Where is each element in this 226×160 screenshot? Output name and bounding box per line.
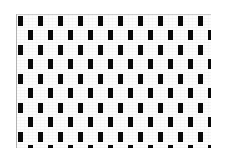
- pattern-bar: [148, 145, 153, 148]
- pattern-bar: [38, 132, 43, 142]
- pattern-bar: [118, 74, 123, 84]
- pattern-bar: [38, 45, 43, 55]
- pattern-bar: [108, 88, 113, 98]
- pattern-bar: [208, 145, 211, 148]
- pattern-bar: [208, 30, 211, 40]
- pattern-bar: [58, 45, 63, 55]
- pattern-bar: [138, 132, 143, 142]
- pattern-bar: [108, 59, 113, 69]
- pattern-bar: [98, 132, 103, 142]
- plate-left-edge-rule: [16, 14, 17, 148]
- pattern-bar: [78, 74, 83, 84]
- pattern-bar: [158, 16, 163, 26]
- pattern-bar: [118, 132, 123, 142]
- pattern-bar: [168, 117, 173, 127]
- pattern-bar: [118, 103, 123, 113]
- pattern-bar: [18, 132, 23, 142]
- pattern-bar: [28, 117, 33, 127]
- pattern-bar: [198, 132, 203, 142]
- pattern-bar: [18, 16, 23, 26]
- pattern-bar: [138, 103, 143, 113]
- pattern-bar: [78, 16, 83, 26]
- pattern-bar: [88, 117, 93, 127]
- pattern-bar: [78, 132, 83, 142]
- pattern-bar: [68, 117, 73, 127]
- pattern-bar: [178, 132, 183, 142]
- pattern-bar: [188, 30, 193, 40]
- pattern-bar: [108, 117, 113, 127]
- pattern-bar: [78, 103, 83, 113]
- pattern-bar: [28, 88, 33, 98]
- pattern-bar: [48, 59, 53, 69]
- image-canvas: [0, 0, 226, 160]
- pattern-bar: [188, 88, 193, 98]
- pattern-bar: [18, 103, 23, 113]
- pattern-bar: [108, 145, 113, 148]
- pattern-bar: [168, 30, 173, 40]
- pattern-bar: [148, 30, 153, 40]
- pattern-bar: [68, 59, 73, 69]
- pattern-bar: [198, 74, 203, 84]
- pattern-bar: [88, 145, 93, 148]
- pattern-bar: [178, 103, 183, 113]
- pattern-bar: [48, 145, 53, 148]
- pattern-bar: [138, 16, 143, 26]
- pattern-bar: [208, 117, 211, 127]
- pattern-bar: [58, 16, 63, 26]
- pattern-bar: [208, 88, 211, 98]
- pattern-bar: [48, 88, 53, 98]
- plate-top-edge-rule: [16, 14, 211, 15]
- pattern-bar: [198, 45, 203, 55]
- pattern-bar: [158, 103, 163, 113]
- pattern-bar: [178, 74, 183, 84]
- pattern-bar: [28, 145, 33, 148]
- pattern-bar: [68, 88, 73, 98]
- pattern-bar: [88, 30, 93, 40]
- pattern-bar: [188, 145, 193, 148]
- pattern-bar: [28, 30, 33, 40]
- pattern-bar: [58, 132, 63, 142]
- pattern-bar: [18, 74, 23, 84]
- pattern-bar: [138, 74, 143, 84]
- pattern-bar: [178, 16, 183, 26]
- pattern-bar: [118, 45, 123, 55]
- pattern-bar: [18, 45, 23, 55]
- pattern-bar: [168, 145, 173, 148]
- pattern-bar: [148, 88, 153, 98]
- pattern-bar: [208, 59, 211, 69]
- pattern-bar: [168, 88, 173, 98]
- pattern-bar: [98, 74, 103, 84]
- pattern-bar: [58, 74, 63, 84]
- pattern-bar: [178, 45, 183, 55]
- pattern-bar: [68, 145, 73, 148]
- pattern-bar: [198, 16, 203, 26]
- pattern-bar: [68, 30, 73, 40]
- pattern-bar: [28, 59, 33, 69]
- pattern-bar: [58, 103, 63, 113]
- pattern-bar: [198, 103, 203, 113]
- pattern-bar: [148, 59, 153, 69]
- pattern-bar: [78, 45, 83, 55]
- pattern-bar: [48, 30, 53, 40]
- pattern-bar: [38, 103, 43, 113]
- pattern-bar: [138, 45, 143, 55]
- pattern-bar: [38, 16, 43, 26]
- pattern-plate: [16, 14, 211, 148]
- pattern-bar: [98, 45, 103, 55]
- pattern-bar: [128, 88, 133, 98]
- pattern-bar: [128, 59, 133, 69]
- pattern-bar: [88, 88, 93, 98]
- pattern-bar: [128, 30, 133, 40]
- pattern-bar: [38, 74, 43, 84]
- pattern-bar: [48, 117, 53, 127]
- pattern-bar: [168, 59, 173, 69]
- pattern-bar: [118, 16, 123, 26]
- pattern-bar: [188, 117, 193, 127]
- pattern-bar: [188, 59, 193, 69]
- pattern-bar: [108, 30, 113, 40]
- pattern-bar: [98, 16, 103, 26]
- pattern-bar: [128, 117, 133, 127]
- pattern-bar: [148, 117, 153, 127]
- pattern-bar: [98, 103, 103, 113]
- pattern-bar: [158, 74, 163, 84]
